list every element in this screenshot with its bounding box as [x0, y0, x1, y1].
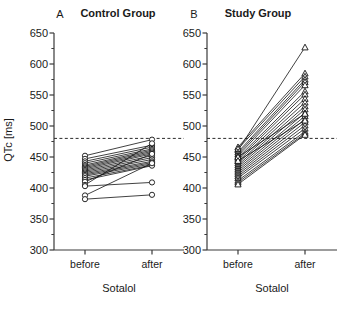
data-point-circle: [82, 184, 87, 189]
panel-a: 300350400450500550600650 before after So…: [30, 27, 184, 294]
y-tick-label: 450: [183, 151, 201, 163]
panel-b-x-axis: [207, 250, 337, 255]
panel-b-letter: B: [190, 8, 197, 20]
panel-b-y-axis: 300350400450500550600650: [183, 27, 207, 256]
panel-b-data: [235, 44, 308, 187]
series-link: [85, 195, 152, 199]
panel-a-y-axis: 300350400450500550600650: [30, 27, 54, 256]
y-axis-label: QTc [ms]: [2, 118, 14, 161]
y-tick-label: 600: [183, 58, 201, 70]
figure-container: A Control Group B Study Group QTc [ms] 3…: [0, 0, 341, 310]
panel-b-cat-after: after: [294, 258, 316, 270]
y-tick-label: 650: [30, 27, 48, 39]
series-link: [238, 135, 305, 185]
y-tick-label: 500: [30, 120, 48, 132]
panel-a-x-axis-label: Sotalol: [102, 282, 136, 294]
series-link: [238, 47, 305, 150]
data-point-circle: [149, 161, 154, 166]
panel-a-letter: A: [56, 8, 64, 20]
y-tick-label: 400: [30, 182, 48, 194]
y-tick-label: 350: [30, 213, 48, 225]
paired-line-chart: A Control Group B Study Group QTc [ms] 3…: [0, 0, 341, 310]
y-tick-label: 600: [30, 58, 48, 70]
y-tick-label: 450: [30, 151, 48, 163]
panel-b-title: Study Group: [225, 7, 292, 19]
data-point-circle: [149, 151, 154, 156]
panel-b: 300350400450500550600650 before after So…: [183, 27, 337, 294]
data-point-triangle: [302, 44, 308, 50]
y-tick-label: 550: [183, 89, 201, 101]
data-point-circle: [149, 180, 154, 185]
y-tick-label: 650: [183, 27, 201, 39]
panel-b-cat-before: before: [223, 258, 253, 270]
panel-a-cat-before: before: [70, 258, 100, 270]
panel-a-x-axis: [54, 250, 184, 255]
y-tick-label: 400: [183, 182, 201, 194]
y-tick-label: 300: [30, 244, 48, 256]
panel-b-x-axis-label: Sotalol: [255, 282, 289, 294]
panel-a-data: [82, 137, 154, 202]
series-link: [85, 182, 152, 186]
y-tick-label: 350: [183, 213, 201, 225]
data-point-circle: [149, 192, 154, 197]
y-tick-label: 550: [30, 89, 48, 101]
y-tick-label: 300: [183, 244, 201, 256]
data-point-circle: [149, 141, 154, 146]
data-point-circle: [82, 197, 87, 202]
panel-a-title: Control Group: [80, 7, 155, 19]
panel-a-cat-after: after: [141, 258, 163, 270]
y-tick-label: 500: [183, 120, 201, 132]
